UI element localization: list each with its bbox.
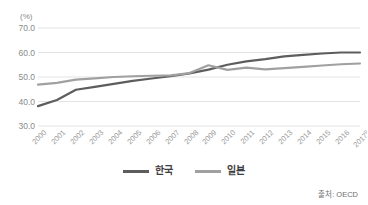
line-swatch-icon — [195, 170, 221, 173]
line-chart: (%) 70.060.050.040.030.0 200020012002200… — [0, 0, 368, 205]
legend-item-label: 일본 — [227, 166, 245, 176]
y-axis-tick-labels: 70.060.050.040.030.0 — [0, 28, 35, 126]
series-line-일본 — [38, 64, 360, 85]
y-axis-tick-30: 30.0 — [5, 121, 35, 131]
series-lines — [38, 28, 360, 126]
x-axis-tick-labels: 2000200120022003200420052006200720082009… — [38, 128, 360, 162]
line-swatch-icon — [123, 170, 149, 173]
source-note: 출처: OECD — [318, 188, 358, 199]
legend-item-일본[interactable]: 일본 — [195, 166, 245, 176]
y-axis-tick-60: 60.0 — [5, 48, 35, 58]
legend-item-한국[interactable]: 한국 — [123, 166, 173, 176]
plot-area — [38, 28, 360, 126]
legend-item-label: 한국 — [155, 166, 173, 176]
y-axis-tick-70: 70.0 — [5, 23, 35, 33]
y-axis-unit-label: (%) — [20, 12, 32, 21]
chart-legend: 한국일본 — [0, 166, 368, 176]
y-axis-tick-50: 50.0 — [5, 72, 35, 82]
y-axis-tick-40: 40.0 — [5, 97, 35, 107]
